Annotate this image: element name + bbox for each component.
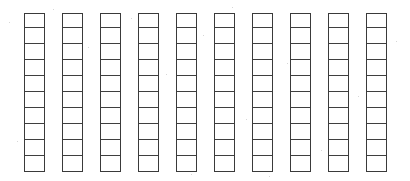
unit-cell[interactable] [329,14,348,28]
unit-cell[interactable] [367,60,386,76]
unit-bar-5[interactable] [176,13,197,172]
unit-cell[interactable] [291,60,310,76]
unit-cell[interactable] [329,140,348,156]
unit-cell[interactable] [177,76,196,92]
unit-cell[interactable] [139,44,158,60]
unit-cell[interactable] [215,28,234,44]
unit-bar-7[interactable] [252,13,273,172]
unit-cell[interactable] [367,140,386,156]
unit-cell[interactable] [25,124,44,140]
unit-cell[interactable] [215,124,234,140]
unit-cell[interactable] [25,156,44,171]
unit-cell[interactable] [63,140,82,156]
unit-cell[interactable] [177,44,196,60]
unit-cell[interactable] [215,44,234,60]
unit-bar-6[interactable] [214,13,235,172]
unit-cell[interactable] [253,92,272,108]
unit-cell[interactable] [101,28,120,44]
unit-cell[interactable] [329,124,348,140]
unit-cell[interactable] [101,92,120,108]
unit-cell[interactable] [215,76,234,92]
unit-cell[interactable] [177,14,196,28]
unit-cell[interactable] [291,76,310,92]
unit-cell[interactable] [63,108,82,124]
unit-cell[interactable] [253,140,272,156]
unit-cell[interactable] [215,140,234,156]
unit-cell[interactable] [25,60,44,76]
unit-cell[interactable] [367,14,386,28]
unit-cell[interactable] [367,76,386,92]
unit-cell[interactable] [139,76,158,92]
unit-cell[interactable] [291,140,310,156]
unit-cell[interactable] [139,124,158,140]
unit-cell[interactable] [367,156,386,171]
unit-cell[interactable] [63,156,82,171]
unit-cell[interactable] [101,140,120,156]
unit-cell[interactable] [291,28,310,44]
unit-cell[interactable] [177,92,196,108]
unit-bar-9[interactable] [328,13,349,172]
unit-cell[interactable] [291,14,310,28]
unit-cell[interactable] [63,28,82,44]
unit-cell[interactable] [329,44,348,60]
unit-cell[interactable] [139,140,158,156]
unit-cell[interactable] [177,60,196,76]
unit-cell[interactable] [63,124,82,140]
unit-cell[interactable] [139,14,158,28]
unit-cell[interactable] [291,44,310,60]
unit-cell[interactable] [25,76,44,92]
unit-cell[interactable] [367,44,386,60]
unit-cell[interactable] [25,140,44,156]
unit-cell[interactable] [329,108,348,124]
unit-cell[interactable] [215,108,234,124]
unit-cell[interactable] [253,124,272,140]
unit-cell[interactable] [101,44,120,60]
unit-cell[interactable] [329,156,348,171]
unit-cell[interactable] [329,28,348,44]
unit-cell[interactable] [101,14,120,28]
unit-cell[interactable] [215,14,234,28]
unit-cell[interactable] [25,92,44,108]
unit-cell[interactable] [367,28,386,44]
unit-cell[interactable] [215,60,234,76]
unit-cell[interactable] [177,124,196,140]
unit-cell[interactable] [329,60,348,76]
unit-cell[interactable] [291,156,310,171]
unit-cell[interactable] [215,156,234,171]
unit-cell[interactable] [25,108,44,124]
unit-cell[interactable] [101,76,120,92]
unit-cell[interactable] [253,156,272,171]
unit-cell[interactable] [25,44,44,60]
unit-cell[interactable] [177,108,196,124]
unit-cell[interactable] [63,60,82,76]
unit-cell[interactable] [253,76,272,92]
unit-bar-1[interactable] [24,13,45,172]
unit-cell[interactable] [329,92,348,108]
unit-bar-2[interactable] [62,13,83,172]
unit-bar-3[interactable] [100,13,121,172]
unit-cell[interactable] [291,108,310,124]
unit-cell[interactable] [367,92,386,108]
unit-cell[interactable] [253,44,272,60]
unit-cell[interactable] [253,60,272,76]
unit-cell[interactable] [291,124,310,140]
unit-cell[interactable] [177,156,196,171]
unit-cell[interactable] [139,28,158,44]
unit-cell[interactable] [367,124,386,140]
unit-cell[interactable] [25,14,44,28]
unit-cell[interactable] [215,92,234,108]
unit-cell[interactable] [329,76,348,92]
unit-cell[interactable] [177,28,196,44]
unit-cell[interactable] [291,92,310,108]
unit-cell[interactable] [253,28,272,44]
unit-cell[interactable] [139,60,158,76]
unit-cell[interactable] [139,108,158,124]
unit-cell[interactable] [139,156,158,171]
unit-cell[interactable] [367,108,386,124]
unit-cell[interactable] [139,92,158,108]
unit-cell[interactable] [101,156,120,171]
unit-cell[interactable] [63,76,82,92]
unit-cell[interactable] [63,44,82,60]
unit-bar-8[interactable] [290,13,311,172]
unit-cell[interactable] [253,108,272,124]
